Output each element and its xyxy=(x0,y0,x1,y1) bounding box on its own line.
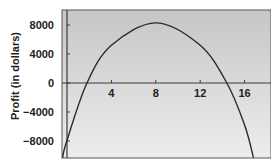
y-tick-label: 4000 xyxy=(30,48,54,60)
y-tick-label: −8000 xyxy=(23,135,54,147)
plot-area xyxy=(62,10,271,158)
y-tick-label: 0 xyxy=(48,77,54,89)
x-tick-label: 4 xyxy=(108,87,115,99)
y-tick-label: 8000 xyxy=(30,19,54,31)
x-tick-label: 8 xyxy=(153,87,159,99)
x-tick-label: 16 xyxy=(238,87,250,99)
x-tick-label: 12 xyxy=(194,87,206,99)
profit-chart: 481216 800040000−4000−8000 Profit (in do… xyxy=(0,0,271,167)
y-axis-title: Profit (in dollars) xyxy=(9,32,21,120)
y-tick-label: −4000 xyxy=(23,106,54,118)
